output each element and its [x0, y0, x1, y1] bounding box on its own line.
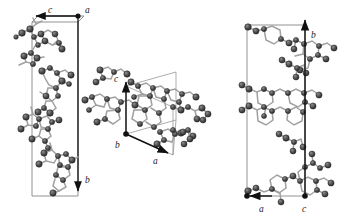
corner-vertex-right	[244, 193, 250, 199]
figure-canvas: c a b	[0, 0, 349, 219]
axis-label-a-right: a	[259, 204, 264, 214]
molecules-right	[239, 24, 337, 205]
origin-vertex-right	[302, 193, 308, 199]
axis-label-b-right: b	[311, 30, 316, 40]
axis-label-c-right: c	[302, 204, 307, 214]
panel-right: b a c	[0, 0, 349, 219]
